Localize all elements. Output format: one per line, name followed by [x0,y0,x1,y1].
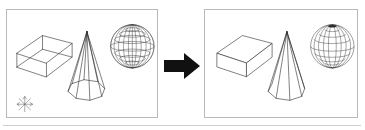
wireframe-box [17,36,72,77]
coordinate-axes-icon [17,96,33,112]
hidden-line-removal-figure [0,0,365,130]
bottom-divider [3,125,361,126]
solid-sphere [311,25,354,68]
solid-cone [268,32,305,101]
wireframe-sphere [111,25,154,68]
solid-box [217,36,272,77]
wireframe-cone [68,32,105,101]
hidden-line-removed-panel [204,9,358,118]
right-arrow-icon [162,50,202,82]
wireframe-panel [6,9,158,118]
top-caption [4,0,304,6]
